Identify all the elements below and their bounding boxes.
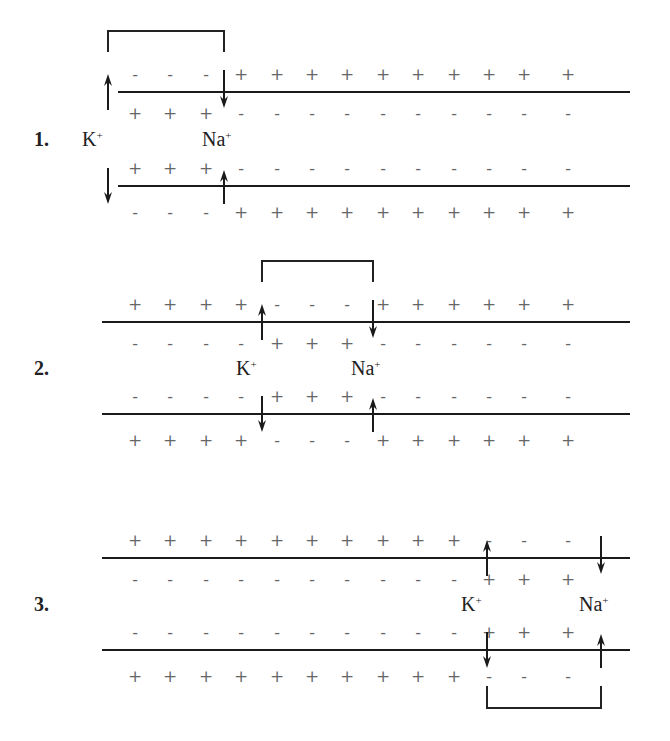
- negative-charge: -: [274, 294, 280, 314]
- negative-charge: -: [203, 64, 209, 84]
- negative-charge: -: [274, 622, 280, 642]
- negative-charge: -: [274, 103, 280, 123]
- negative-charge: -: [451, 569, 457, 589]
- positive-charge: +: [305, 386, 319, 406]
- negative-charge: -: [238, 103, 244, 123]
- negative-charge: -: [451, 103, 457, 123]
- negative-charge: -: [451, 333, 457, 353]
- negative-charge: -: [132, 64, 138, 84]
- negative-charge: -: [274, 430, 280, 450]
- positive-charge: +: [199, 103, 213, 123]
- positive-charge: +: [376, 64, 390, 84]
- outer-top-charges: ++++---++++++: [128, 294, 575, 314]
- positive-charge: +: [305, 202, 319, 222]
- k-efflux-down-arrow: [104, 168, 112, 204]
- positive-charge: +: [517, 569, 531, 589]
- negative-charge: -: [521, 530, 527, 550]
- k-efflux-up-arrow: [104, 74, 112, 110]
- positive-charge: +: [561, 430, 575, 450]
- positive-charge: +: [561, 569, 575, 589]
- na-influx-down-arrow: [597, 536, 605, 574]
- positive-charge: +: [376, 530, 390, 550]
- positive-charge: +: [517, 64, 531, 84]
- positive-charge: +: [270, 386, 284, 406]
- outer-bottom-charges: ---++++++++++: [132, 202, 575, 222]
- positive-charge: +: [340, 530, 354, 550]
- negative-charge: -: [309, 158, 315, 178]
- action-potential-diagram: 1.---+++++++++++++----------+++---------…: [0, 0, 670, 741]
- positive-charge: +: [270, 530, 284, 550]
- positive-charge: +: [305, 530, 319, 550]
- positive-charge: +: [234, 666, 248, 686]
- negative-charge: -: [238, 158, 244, 178]
- positive-charge: +: [128, 158, 142, 178]
- negative-charge: -: [344, 569, 350, 589]
- positive-charge: +: [163, 294, 177, 314]
- positive-charge: +: [482, 430, 496, 450]
- step-number: 2.: [34, 357, 49, 379]
- negative-charge: -: [344, 430, 350, 450]
- negative-charge: -: [309, 294, 315, 314]
- positive-charge: +: [561, 294, 575, 314]
- negative-charge: -: [486, 103, 492, 123]
- outer-bottom-charges: ++++---++++++: [128, 430, 575, 450]
- positive-charge: +: [411, 666, 425, 686]
- positive-charge: +: [128, 103, 142, 123]
- positive-charge: +: [411, 294, 425, 314]
- negative-charge: -: [380, 386, 386, 406]
- positive-charge: +: [340, 333, 354, 353]
- positive-charge: +: [561, 622, 575, 642]
- inner-top-charges: ----+++------: [132, 333, 571, 353]
- positive-charge: +: [234, 294, 248, 314]
- positive-charge: +: [447, 666, 461, 686]
- positive-charge: +: [561, 202, 575, 222]
- positive-charge: +: [270, 333, 284, 353]
- positive-charge: +: [163, 666, 177, 686]
- positive-charge: +: [234, 202, 248, 222]
- na-influx-down-arrow: [220, 70, 228, 108]
- negative-charge: -: [521, 386, 527, 406]
- positive-charge: +: [482, 569, 496, 589]
- negative-charge: -: [380, 103, 386, 123]
- positive-charge: +: [163, 103, 177, 123]
- outer-bottom-charges: ++++++++++---: [128, 666, 571, 686]
- positive-charge: +: [517, 202, 531, 222]
- k-ion-label: K+: [82, 128, 103, 150]
- negative-charge: -: [565, 103, 571, 123]
- outer-top-charges: ++++++++++---: [128, 530, 571, 550]
- negative-charge: -: [203, 386, 209, 406]
- inner-top-charges: +++----------: [128, 103, 571, 123]
- positive-charge: +: [411, 530, 425, 550]
- negative-charge: -: [415, 622, 421, 642]
- negative-charge: -: [380, 333, 386, 353]
- negative-charge: -: [344, 103, 350, 123]
- positive-charge: +: [199, 530, 213, 550]
- step-2: 2.++++---++++++----+++----------+++-----…: [34, 261, 630, 450]
- negative-charge: -: [380, 569, 386, 589]
- negative-charge: -: [132, 386, 138, 406]
- negative-charge: -: [274, 569, 280, 589]
- inner-bottom-charges: ----------+++: [132, 622, 575, 642]
- negative-charge: -: [309, 622, 315, 642]
- positive-charge: +: [561, 64, 575, 84]
- negative-charge: -: [415, 158, 421, 178]
- na-ion-label: Na+: [579, 593, 609, 615]
- negative-charge: -: [451, 158, 457, 178]
- positive-charge: +: [340, 202, 354, 222]
- inner-bottom-charges: ----+++------: [132, 386, 571, 406]
- negative-charge: -: [486, 333, 492, 353]
- positive-charge: +: [517, 622, 531, 642]
- positive-charge: +: [305, 64, 319, 84]
- inner-top-charges: ----------+++: [132, 569, 575, 589]
- negative-charge: -: [565, 333, 571, 353]
- outer-top-charges: ---++++++++++: [132, 64, 575, 84]
- positive-charge: +: [447, 202, 461, 222]
- negative-charge: -: [132, 569, 138, 589]
- positive-charge: +: [270, 202, 284, 222]
- positive-charge: +: [411, 430, 425, 450]
- positive-charge: +: [340, 64, 354, 84]
- positive-charge: +: [199, 666, 213, 686]
- negative-charge: -: [309, 430, 315, 450]
- positive-charge: +: [411, 64, 425, 84]
- negative-charge: -: [565, 386, 571, 406]
